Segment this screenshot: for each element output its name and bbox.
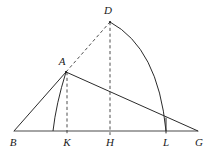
point-label-g: G	[195, 136, 203, 148]
point-label-b: B	[10, 136, 17, 148]
point-label-a: A	[58, 55, 66, 67]
vertex-dot-d	[109, 21, 111, 23]
segment-ad-dashed	[66, 22, 110, 72]
arc-a-to-baseline	[53, 72, 66, 131]
vertex-dot-a	[65, 71, 67, 73]
segment-ag	[66, 72, 198, 131]
geometry-figure: B K H L G A D	[0, 0, 216, 159]
point-label-h: H	[105, 136, 115, 148]
point-label-k: K	[62, 136, 71, 148]
point-label-d: D	[103, 4, 112, 16]
arc-d-to-l	[110, 22, 166, 131]
geometry-canvas: B K H L G A D	[0, 0, 216, 159]
point-label-l: L	[162, 136, 169, 148]
